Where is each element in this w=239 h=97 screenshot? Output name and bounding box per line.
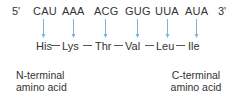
c-terminal-label: C-terminal amino acid xyxy=(170,69,222,93)
arrow-icon-6 xyxy=(195,19,199,38)
amino-acid-1: His xyxy=(36,40,52,52)
amino-acid-6: Ile xyxy=(188,40,200,52)
amino-acid-4: Val xyxy=(125,40,140,52)
amino-acid-3: Thr xyxy=(95,40,112,52)
arrow-icon-3 xyxy=(104,19,108,38)
arrow-icon-4 xyxy=(136,19,140,38)
arrow-icon-1 xyxy=(42,19,46,38)
n-terminal-label: N-terminal amino acid xyxy=(16,69,62,93)
arrow-icon-5 xyxy=(166,19,170,38)
arrow-icon-2 xyxy=(72,19,76,38)
amino-acid-2: Lys xyxy=(62,40,79,52)
amino-acid-5: Leu xyxy=(156,40,174,52)
